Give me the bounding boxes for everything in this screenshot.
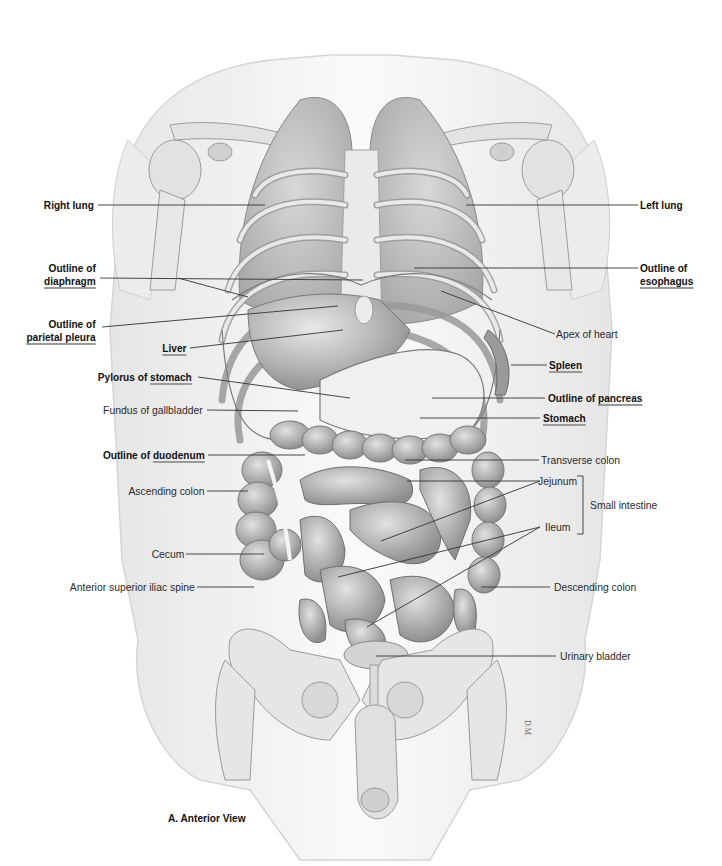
figure-caption: A. Anterior View	[168, 812, 246, 824]
label-transverse-colon: Transverse colon	[541, 454, 620, 467]
label-pylorus-of-stomach: Pylorus of stomach	[98, 371, 192, 384]
label-part-1: Pylorus of	[98, 371, 150, 383]
label-part-1: Outline of	[103, 449, 153, 461]
anatomy-illustration: D.M.	[0, 0, 722, 866]
label-outline-parietal-pleura: Outline of parietal pleura	[27, 318, 96, 344]
label-part-2: duodenum	[153, 449, 205, 461]
label-anterior-superior-iliac-spine: Anterior superior iliac spine	[70, 581, 195, 594]
label-apex-of-heart: Apex of heart	[556, 328, 618, 341]
label-small-intestine: Small intestine	[590, 499, 657, 512]
label-urinary-bladder: Urinary bladder	[560, 650, 631, 663]
label-outline-esophagus: Outline of esophagus	[640, 262, 693, 288]
label-line-2: parietal pleura	[27, 331, 96, 344]
xiphoid	[355, 296, 373, 324]
label-line-2: esophagus	[640, 275, 693, 288]
artist-signature: D.M.	[523, 720, 532, 737]
label-spleen: Spleen	[549, 359, 582, 372]
label-line-1: Outline of	[27, 318, 96, 331]
label-jejunum: Jejunum	[538, 475, 577, 488]
label-stomach: Stomach	[543, 412, 586, 425]
label-part-1: Outline of	[548, 392, 598, 404]
label-right-lung: Right lung	[44, 199, 94, 212]
label-fundus-of-gallbladder: Fundus of gallbladder	[103, 404, 203, 417]
label-outline-diaphragm: Outline of diaphragm	[44, 262, 96, 288]
label-line-1: Outline of	[44, 262, 96, 275]
label-ascending-colon: Ascending colon	[128, 485, 204, 498]
label-part-2: stomach	[150, 371, 192, 383]
label-part-2: pancreas	[598, 392, 642, 404]
label-outline-of-duodenum: Outline of duodenum	[103, 449, 205, 462]
label-line-1: Outline of	[640, 262, 693, 275]
label-descending-colon: Descending colon	[554, 581, 636, 594]
label-left-lung: Left lung	[640, 199, 683, 212]
label-cecum: Cecum	[151, 548, 184, 561]
label-outline-of-pancreas: Outline of pancreas	[548, 392, 642, 405]
label-line-2: diaphragm	[44, 275, 96, 288]
label-liver: Liver	[162, 342, 186, 355]
label-ileum: Ileum	[545, 521, 570, 534]
